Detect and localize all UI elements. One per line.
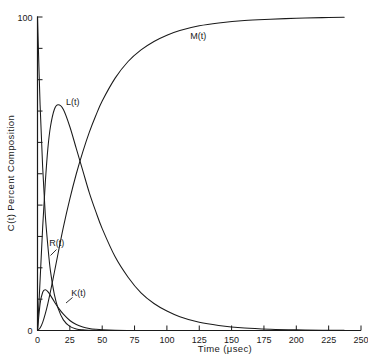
x-tick-label: 50 xyxy=(97,335,107,345)
x-tick-label: 250 xyxy=(353,335,368,345)
x-tick-label: 25 xyxy=(65,335,75,345)
x-tick-label: 225 xyxy=(321,335,336,345)
x-tick-label: 100 xyxy=(159,335,174,345)
x-axis-title: Time (μsec) xyxy=(198,343,252,354)
curve-label-lt: L(t) xyxy=(66,97,80,107)
y-tick-label: 0 xyxy=(27,326,32,336)
x-tick-label: 0 xyxy=(35,335,40,345)
x-tick-label: 200 xyxy=(289,335,304,345)
y-tick-label: 100 xyxy=(17,13,32,23)
curve-label-rt: R(t) xyxy=(49,238,64,248)
curve-label-mt: M(t) xyxy=(190,31,206,41)
x-tick-label: 75 xyxy=(130,335,140,345)
kinetics-line-chart: 0100 0255075100125150175200225250 M(t)L(… xyxy=(0,0,368,356)
curve-label-kt: K(t) xyxy=(71,288,86,298)
chart-figure: 0100 0255075100125150175200225250 M(t)L(… xyxy=(0,0,368,356)
x-tick-label: 175 xyxy=(256,335,271,345)
y-axis-title: C(t) Percent Composition xyxy=(5,115,16,231)
